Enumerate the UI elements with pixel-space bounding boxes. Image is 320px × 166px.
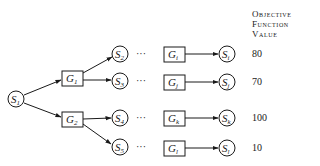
objective-function-header: Objective Function Value <box>252 9 292 39</box>
ellipsis-row-4: ··· <box>136 141 146 152</box>
edges <box>24 54 218 148</box>
edge-g1-s2 <box>83 57 112 73</box>
ellipsis-row-1: ··· <box>136 48 146 59</box>
header-line-3: Value <box>252 29 292 39</box>
objective-value-3: 100 <box>252 112 267 123</box>
edge-s1-g2 <box>24 103 61 117</box>
objective-value-4: 10 <box>252 142 262 153</box>
ellipsis-row-2: ··· <box>136 75 146 86</box>
edge-s1-g1 <box>24 80 61 95</box>
objective-value-2: 70 <box>252 76 262 87</box>
edge-g2-s5 <box>83 124 111 144</box>
edge-g2-s4 <box>83 118 111 119</box>
header-line-2: Function <box>252 19 292 29</box>
header-line-1: Objective <box>252 9 292 19</box>
ellipsis-row-3: ··· <box>136 112 146 123</box>
objective-value-1: 80 <box>252 48 262 59</box>
